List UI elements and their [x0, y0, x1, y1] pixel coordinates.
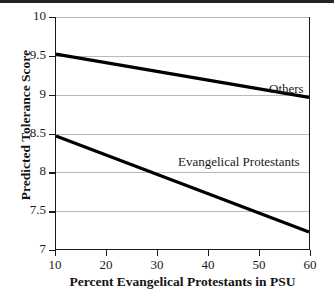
scan-top-edge	[0, 0, 334, 3]
y-tick-label: 9	[40, 86, 47, 102]
plot-area: Others Evangelical Protestants	[55, 17, 310, 250]
x-tick-label: 30	[137, 257, 177, 273]
x-tick-label: 60	[290, 257, 330, 273]
line-evangelical-protestants	[56, 136, 309, 232]
y-tick-label: 10	[33, 8, 46, 24]
data-lines	[56, 17, 309, 249]
x-tick-label: 10	[35, 257, 75, 273]
y-tick-label: 9.5	[30, 47, 46, 63]
chart-figure: Predicted Tolerance Score 77.588.599.510…	[0, 0, 334, 296]
x-tick-mark	[106, 250, 107, 256]
x-axis-title: Percent Evangelical Protestants in PSU	[40, 274, 325, 290]
x-tick-label: 40	[188, 257, 228, 273]
x-tick-mark	[157, 250, 158, 256]
y-tick-label: 8	[40, 163, 47, 179]
x-tick-mark	[259, 250, 260, 256]
x-tick-mark	[55, 250, 56, 256]
x-tick-mark	[208, 250, 209, 256]
x-tick-label: 20	[86, 257, 126, 273]
y-tick-label: 8.5	[30, 125, 46, 141]
y-tick-label: 7.5	[30, 202, 46, 218]
y-tick-label: 7	[40, 241, 47, 257]
series-label-others: Others	[269, 81, 304, 97]
x-tick-label: 50	[239, 257, 279, 273]
x-tick-mark	[310, 250, 311, 256]
series-label-evangelical-protestants: Evangelical Protestants	[178, 154, 300, 170]
